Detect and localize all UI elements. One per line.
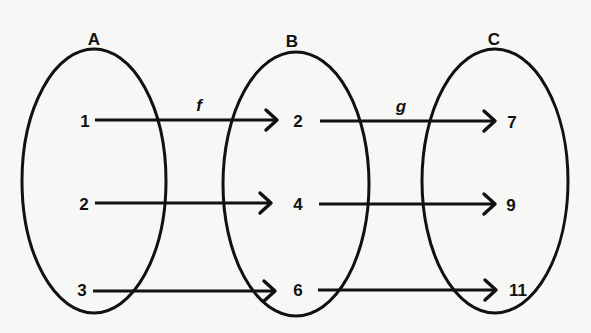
set-b-ellipse — [223, 52, 369, 316]
set-b-element: 4 — [293, 196, 302, 213]
function-g-label: g — [396, 98, 406, 115]
set-a-element: 2 — [79, 196, 88, 213]
set-b-element: 2 — [293, 113, 302, 130]
set-a-element: 1 — [80, 113, 89, 130]
set-c-element: 9 — [506, 197, 515, 214]
arrow-f-1-to-2 — [95, 110, 277, 130]
set-c-label: C — [488, 31, 500, 48]
set-b-element: 6 — [293, 282, 302, 299]
arrow-g-4-to-9 — [319, 194, 495, 214]
set-b-label: B — [286, 33, 298, 50]
set-a-label: A — [88, 31, 100, 48]
set-a-ellipse — [22, 49, 166, 313]
function-f-label: f — [196, 97, 202, 114]
arrow-g-2-to-7 — [320, 111, 495, 131]
set-c-ellipse — [422, 49, 568, 313]
set-c-element: 7 — [507, 114, 516, 131]
set-c-element: 11 — [509, 282, 527, 299]
set-a-element: 3 — [77, 282, 86, 299]
arrow-f-2-to-4 — [95, 193, 271, 213]
